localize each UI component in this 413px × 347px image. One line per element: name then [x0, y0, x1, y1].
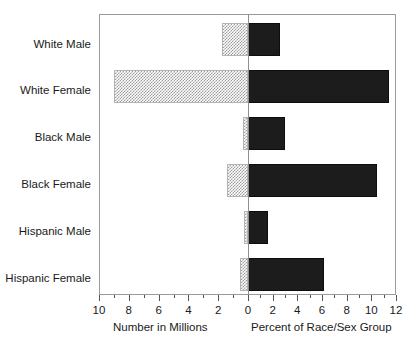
x-axis-tick — [396, 295, 397, 301]
bar-right-hispanic-male — [248, 211, 268, 244]
x-axis-tick-label: 6 — [309, 303, 335, 317]
x-axis-tick — [273, 295, 274, 301]
x-axis-tick — [218, 295, 219, 301]
x-axis-tick-label: 10 — [358, 303, 384, 317]
x-axis-tick-label: 4 — [284, 303, 310, 317]
x-axis-tick — [233, 295, 234, 298]
x-axis-tick — [371, 295, 372, 301]
x-axis-ticks — [99, 295, 396, 303]
x-axis-tick — [99, 295, 100, 301]
category-label-black-male: Black Male — [0, 131, 91, 143]
x-axis-tick — [310, 295, 311, 298]
x-axis-tick — [359, 295, 360, 298]
x-axis-tick-label: 6 — [146, 303, 172, 317]
y-axis-category-labels: White Male White Female Black Male Black… — [0, 14, 95, 295]
category-label-hispanic-female: Hispanic Female — [0, 272, 91, 284]
x-axis-tick-label: 2 — [260, 303, 286, 317]
x-axis-tick-label: 10 — [86, 303, 112, 317]
bar-right-white-male — [248, 23, 280, 56]
right-axis-title: Percent of Race/Sex Group — [251, 320, 392, 334]
bidirectional-bar-chart: White Male White Female Black Male Black… — [0, 0, 413, 347]
category-label-hispanic-male: Hispanic Male — [0, 225, 91, 237]
x-axis-tick-label: 8 — [334, 303, 360, 317]
x-axis-tick — [188, 295, 189, 301]
x-axis-tick-label: 4 — [175, 303, 201, 317]
left-axis-title: Number in Millions — [113, 320, 208, 334]
bar-left-black-female — [227, 164, 248, 197]
x-axis-tick — [159, 295, 160, 301]
bar-left-white-female — [114, 70, 248, 103]
x-axis-tick — [129, 295, 130, 301]
x-axis-tick-label: 12 — [383, 303, 409, 317]
x-axis-tick — [174, 295, 175, 298]
x-axis-tick — [334, 295, 335, 298]
bar-right-black-female — [248, 164, 377, 197]
x-axis-tick — [347, 295, 348, 301]
x-axis-tick — [260, 295, 261, 298]
x-axis-tick-label: 0 — [235, 303, 261, 317]
bar-left-white-male — [222, 23, 248, 56]
x-axis-tick — [322, 295, 323, 301]
x-axis-tick — [248, 295, 249, 301]
bar-right-white-female — [248, 70, 389, 103]
x-axis-tick — [297, 295, 298, 301]
category-label-black-female: Black Female — [0, 178, 91, 190]
bar-left-hispanic-female — [240, 258, 248, 291]
zero-reference-line — [248, 14, 249, 296]
x-axis-tick-label: 8 — [116, 303, 142, 317]
x-axis-tick-label: 2 — [205, 303, 231, 317]
x-axis-tick — [114, 295, 115, 298]
category-label-white-male: White Male — [0, 38, 91, 50]
x-axis-tick — [144, 295, 145, 298]
category-label-white-female: White Female — [0, 84, 91, 96]
bar-right-hispanic-female — [248, 258, 324, 291]
x-axis-tick-labels: 108642024681012 — [0, 303, 413, 319]
x-axis-tick — [285, 295, 286, 298]
bar-right-black-male — [248, 117, 285, 150]
x-axis-tick — [203, 295, 204, 298]
x-axis-tick — [384, 295, 385, 298]
